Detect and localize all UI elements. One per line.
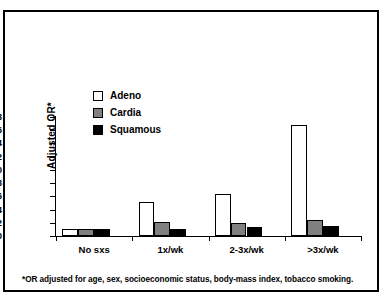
bar-cardia-1: [154, 222, 170, 236]
bar-group: [291, 117, 338, 236]
legend-label-adeno: Adeno: [110, 90, 141, 101]
y-tick-label: 6: [0, 191, 2, 201]
legend-item-squamous: Squamous: [93, 122, 161, 137]
bar-group: [215, 117, 262, 236]
y-tick-label: 16: [0, 125, 2, 135]
legend-label-squamous: Squamous: [110, 124, 161, 135]
bar-cardia-3: [307, 220, 323, 236]
bar-adeno-1: [139, 202, 155, 236]
y-tick-label: 18: [0, 112, 2, 122]
bar-cardia-0: [78, 229, 94, 236]
x-tick-mark: [132, 236, 133, 241]
bar-squamous-0: [94, 229, 110, 236]
footnote: *OR adjusted for age, sex, socioeconomic…: [22, 275, 353, 284]
figure-frame: Adjusted OR* 024681012141618 No sxs1x/wk…: [3, 10, 379, 292]
legend-swatch-squamous-icon: [93, 125, 103, 135]
x-tick-mark: [285, 236, 286, 241]
x-tick-mark: [361, 236, 362, 241]
y-tick-label: 4: [0, 205, 2, 215]
bar-squamous-3: [323, 226, 339, 236]
bar-adeno-0: [62, 229, 78, 236]
bar-squamous-2: [247, 227, 263, 236]
x-tick-mark: [56, 236, 57, 241]
x-category-label: 2-3x/wk: [209, 244, 285, 255]
x-tick-mark: [209, 236, 210, 241]
y-tick-label: 12: [0, 152, 2, 162]
legend-label-cardia: Cardia: [110, 107, 141, 118]
legend-swatch-adeno-icon: [93, 91, 103, 101]
y-tick-label: 0: [0, 231, 2, 241]
x-category-label: No sxs: [56, 244, 132, 255]
y-tick-label: 10: [0, 165, 2, 175]
bar-adeno-2: [215, 194, 231, 236]
x-category-label: >3x/wk: [285, 244, 361, 255]
bar-squamous-1: [170, 229, 186, 236]
legend-item-adeno: Adeno: [93, 88, 161, 103]
y-tick-label: 2: [0, 218, 2, 228]
legend-item-cardia: Cardia: [93, 105, 161, 120]
y-tick-label: 8: [0, 178, 2, 188]
legend: Adeno Cardia Squamous: [93, 88, 161, 139]
bar-adeno-3: [291, 125, 307, 236]
x-category-label: 1x/wk: [132, 244, 208, 255]
bar-cardia-2: [231, 223, 247, 236]
legend-swatch-cardia-icon: [93, 108, 103, 118]
y-tick-label: 14: [0, 138, 2, 148]
